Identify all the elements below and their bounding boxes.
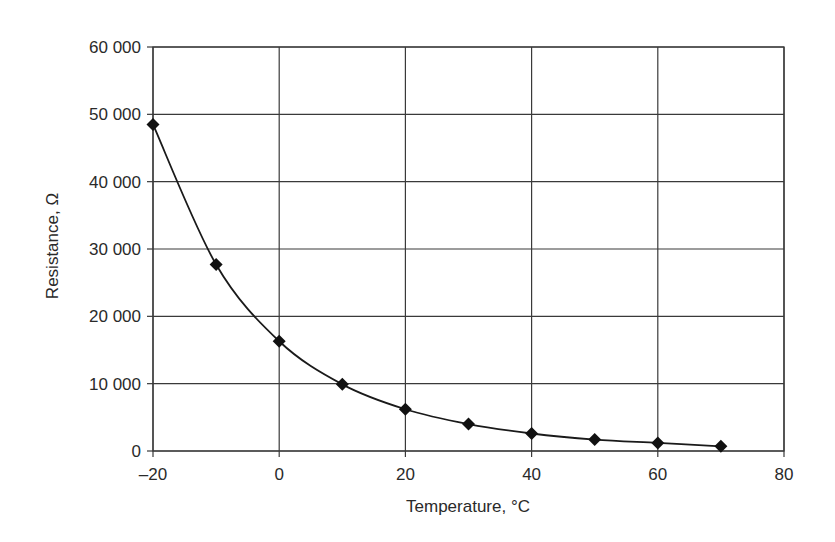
x-tick-label: 20: [396, 465, 415, 484]
y-tick-label: 40 000: [89, 173, 141, 192]
x-tick-label: 40: [522, 465, 541, 484]
y-axis-title: Resistance, Ω: [43, 193, 62, 299]
y-tick-label: 60 000: [89, 38, 141, 57]
x-axis-ticks: –20020406080: [139, 451, 794, 484]
diamond-marker-icon: [588, 433, 601, 446]
diamond-marker-icon: [651, 436, 664, 449]
data-series: [147, 118, 728, 453]
y-tick-label: 10 000: [89, 375, 141, 394]
diamond-marker-icon: [399, 403, 412, 416]
x-tick-label: 60: [648, 465, 667, 484]
y-axis-ticks: 010 00020 00030 00040 00050 00060 000: [89, 38, 153, 461]
y-tick-label: 20 000: [89, 307, 141, 326]
x-tick-label: 0: [274, 465, 283, 484]
thermistor-resistance-chart: 010 00020 00030 00040 00050 00060 000 –2…: [0, 0, 835, 542]
series-line: [153, 124, 721, 446]
diamond-marker-icon: [462, 418, 475, 431]
x-tick-label: –20: [139, 465, 167, 484]
y-tick-label: 0: [132, 442, 141, 461]
diamond-marker-icon: [210, 258, 223, 271]
y-tick-label: 50 000: [89, 105, 141, 124]
x-axis-title: Temperature, °C: [406, 497, 530, 516]
diamond-marker-icon: [525, 427, 538, 440]
diamond-marker-icon: [147, 118, 160, 131]
diamond-marker-icon: [336, 378, 349, 391]
gridlines: [153, 47, 784, 451]
y-tick-label: 30 000: [89, 240, 141, 259]
x-tick-label: 80: [775, 465, 794, 484]
